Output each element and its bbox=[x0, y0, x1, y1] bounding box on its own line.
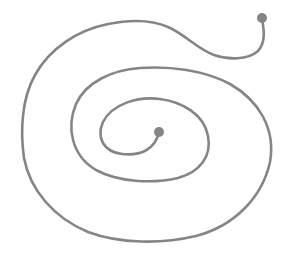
spiral-line bbox=[22, 18, 271, 242]
inner-endpoint-dot bbox=[154, 127, 164, 137]
spiral-svg bbox=[0, 0, 287, 254]
spiral-diagram bbox=[0, 0, 287, 254]
outer-endpoint-dot bbox=[257, 13, 267, 23]
